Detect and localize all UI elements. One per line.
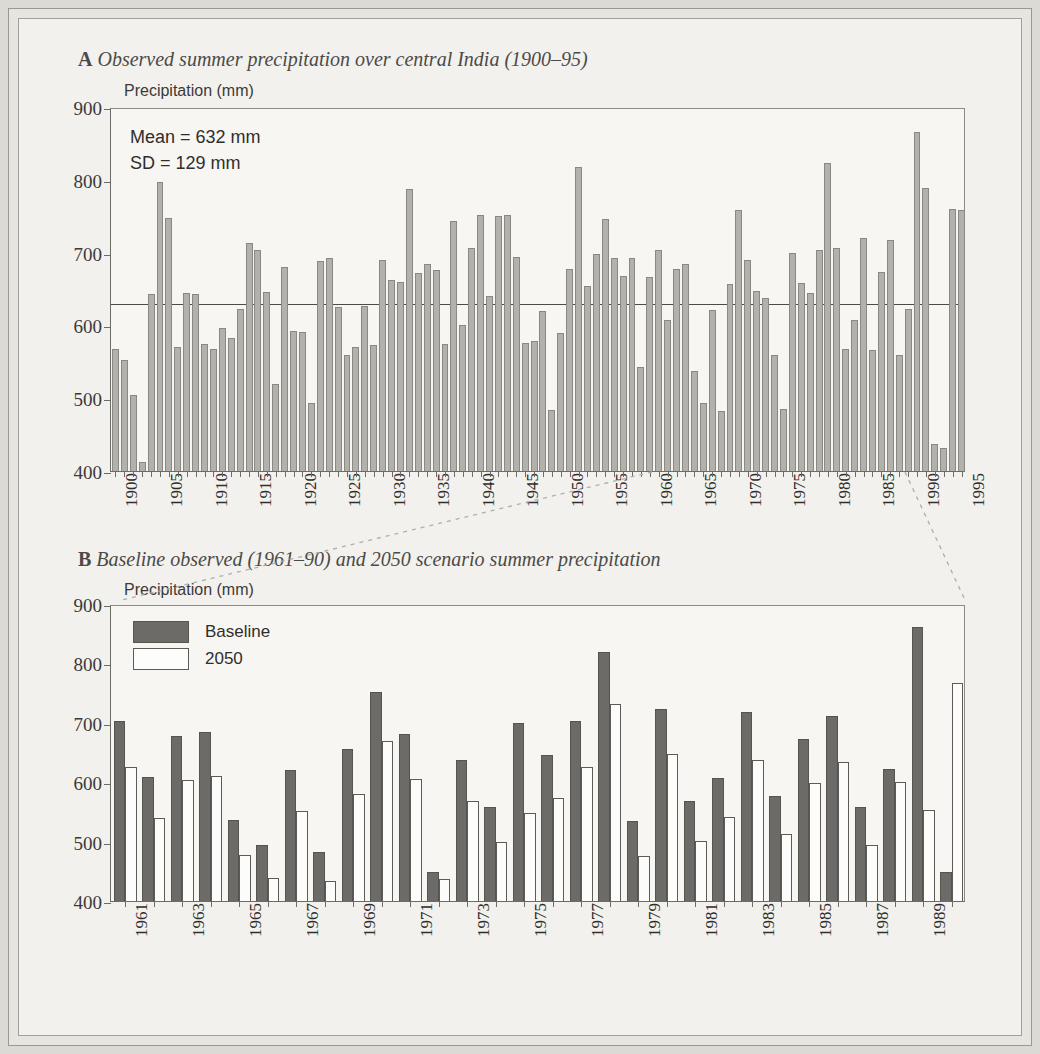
panel-b-bar-baseline	[798, 739, 809, 901]
panel-a-bar	[762, 298, 769, 471]
panel-a-bar	[219, 328, 226, 471]
panel-a-xtick-mark	[338, 471, 339, 477]
panel-a-bar	[914, 132, 921, 471]
panel-a-bar	[504, 215, 511, 471]
panel-a-xtick-mark	[917, 471, 918, 477]
panel-a-xtick-mark	[302, 471, 303, 477]
panel-b-ytick-mark	[104, 903, 111, 904]
panel-b-bar-baseline	[826, 716, 837, 901]
panel-b-bar-2050	[154, 818, 165, 901]
panel-a-xtick-mark	[623, 471, 624, 477]
panel-b-xtick-mark	[239, 901, 240, 907]
panel-b-bar-baseline	[598, 652, 609, 901]
panel-a-xtick-mark	[935, 471, 936, 477]
panel-a-bar	[780, 409, 787, 471]
panel-b-bar-2050	[752, 760, 763, 901]
panel-a-ytick-mark	[104, 473, 111, 474]
panel-a-xtick-mark	[187, 471, 188, 477]
panel-b: B Baseline observed (1961–90) and 2050 s…	[0, 535, 1040, 1054]
panel-a-ylabel: Precipitation (mm)	[124, 82, 254, 100]
panel-b-bar-baseline	[940, 872, 951, 901]
panel-a-bar	[575, 167, 582, 471]
panel-a-bar	[352, 347, 359, 471]
panel-a-xtick-mark	[205, 471, 206, 477]
panel-a-xtick-mark	[124, 471, 125, 477]
panel-b-bar-baseline	[883, 769, 894, 901]
panel-a-xtick-mark	[427, 471, 428, 477]
panel-a-xtick-mark	[356, 471, 357, 477]
panel-a-bar	[192, 294, 199, 471]
panel-a-bar	[602, 219, 609, 471]
panel-a-xtick-mark	[151, 471, 152, 477]
panel-b-bar-2050	[638, 856, 649, 901]
panel-a-bar	[495, 216, 502, 471]
panel-a-bar	[539, 311, 546, 471]
panel-a-ytick-mark	[104, 109, 111, 110]
panel-a-xtick-mark	[632, 471, 633, 477]
panel-a-ytick-mark	[104, 255, 111, 256]
panel-a-bar	[415, 273, 422, 471]
panel-a-xtick-mark	[267, 471, 268, 477]
panel-b-bar-baseline	[684, 801, 695, 901]
panel-a-xtick-mark	[525, 471, 526, 477]
panel-a-bar	[246, 243, 253, 471]
panel-a-bar	[183, 293, 190, 471]
panel-a-xtick-mark	[311, 471, 312, 477]
panel-a-xtick-mark	[561, 471, 562, 477]
panel-b-bar-baseline	[399, 734, 410, 901]
panel-a-bar	[557, 333, 564, 471]
panel-a-xtick-mark	[445, 471, 446, 477]
panel-a-bar	[442, 344, 449, 471]
panel-a-bar	[397, 282, 404, 471]
panel-a-xtick-mark	[641, 471, 642, 477]
panel-b-bar-baseline	[712, 778, 723, 901]
panel-a-bar	[922, 188, 929, 471]
panel-b-bar-baseline	[769, 796, 780, 901]
legend-item-2050: 2050	[133, 647, 270, 671]
panel-a-xtick-mark	[498, 471, 499, 477]
panel-b-xtick-label-text: 1967	[303, 903, 323, 937]
panel-a-xtick-mark	[694, 471, 695, 477]
panel-b-xtick-mark	[296, 901, 297, 907]
panel-b-ylabel: Precipitation (mm)	[124, 581, 254, 599]
panel-b-bar-2050	[496, 842, 507, 901]
panel-b-xtick-mark	[866, 901, 867, 907]
panel-a-bar	[290, 331, 297, 471]
panel-a-xtick-label-text: 1925	[345, 473, 365, 507]
panel-b-xtick-label-text: 1975	[531, 903, 551, 937]
panel-a-xtick-label-text: 1975	[790, 473, 810, 507]
panel-b-bar-2050	[439, 879, 450, 901]
panel-a-xtick-mark	[507, 471, 508, 477]
panel-a-bar	[468, 248, 475, 471]
panel-a-xtick-mark	[766, 471, 767, 477]
panel-a-bar	[344, 355, 351, 471]
panel-a-xtick-label-text: 1900	[122, 473, 142, 507]
panel-b-xtick-label-text: 1979	[645, 903, 665, 937]
panel-a-bar	[308, 403, 315, 471]
panel-a-xtick-mark	[659, 471, 660, 477]
legend-label-baseline: Baseline	[205, 622, 270, 642]
panel-b-bar-2050	[923, 810, 934, 901]
panel-a-xtick-mark	[320, 471, 321, 477]
panel-b-xtick-mark	[610, 901, 611, 907]
panel-b-xtick-mark	[439, 901, 440, 907]
panel-b-xtick-label-text: 1969	[360, 903, 380, 937]
panel-a-bar	[254, 250, 261, 471]
panel-a-xtick-mark	[400, 471, 401, 477]
panel-b-bar-baseline	[142, 777, 153, 901]
panel-a-bar	[824, 163, 831, 471]
panel-a-bar	[709, 310, 716, 471]
panel-a-bar	[727, 284, 734, 471]
panel-a-xtick-mark	[570, 471, 571, 477]
panel-a-xtick-mark	[685, 471, 686, 477]
panel-a-xtick-mark	[258, 471, 259, 477]
panel-a-xtick-mark	[249, 471, 250, 477]
panel-a-bar	[664, 320, 671, 471]
panel-a-bar	[335, 307, 342, 471]
panel-a-xtick-mark	[454, 471, 455, 477]
panel-a-bar	[816, 250, 823, 471]
panel-a-bar	[174, 347, 181, 471]
panel-a-bar	[896, 355, 903, 471]
panel-b-xtick-mark	[182, 901, 183, 907]
panel-b-bar-baseline	[342, 749, 353, 901]
